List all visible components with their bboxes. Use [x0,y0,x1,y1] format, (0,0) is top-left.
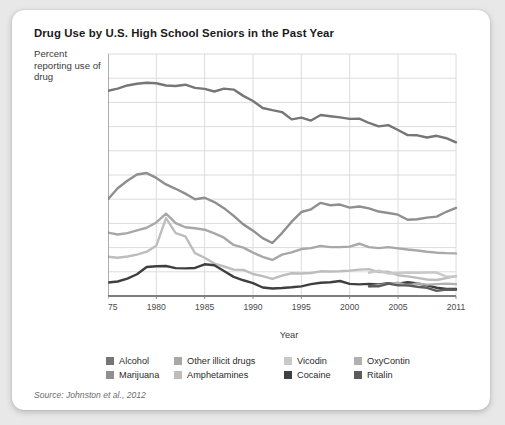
line-chart-svg: 0102030405060708090100 19751980198519901… [108,48,470,318]
x-tick-label: 1975 [108,302,118,312]
legend-swatch-icon [284,357,292,365]
legend-label: OxyContin [367,356,410,366]
legend-item-alcohol[interactable]: Alcohol [106,356,174,366]
legend-item-cocaine[interactable]: Cocaine [284,370,354,380]
chart-legend: AlcoholOther illicit drugsVicodinOxyCont… [106,354,436,382]
legend-swatch-icon [284,371,292,379]
grid-lines [108,54,456,296]
y-axis-caption: Percent reporting use of drug [34,48,106,83]
legend-swatch-icon [174,357,182,365]
axis-lines [108,54,456,299]
x-tick-label: 1985 [195,302,214,312]
legend-label: Cocaine [297,370,331,380]
legend-row: MarijuanaAmphetaminesCocaineRitalin [106,368,436,382]
series-line-alcohol [108,83,456,143]
legend-row: AlcoholOther illicit drugsVicodinOxyCont… [106,354,436,368]
legend-item-marijuana[interactable]: Marijuana [106,370,174,380]
legend-item-oxycontin[interactable]: OxyContin [354,356,434,366]
page-title: Drug Use by U.S. High School Seniors in … [34,27,334,39]
legend-item-other-illicit-drugs[interactable]: Other illicit drugs [174,356,284,366]
x-tick-label: 1990 [243,302,262,312]
legend-label: Vicodin [297,356,327,366]
source-note: Source: Johnston et al., 2012 [34,390,146,400]
x-axis-title: Year [108,330,470,340]
legend-label: Other illicit drugs [187,356,255,366]
x-tick-label: 2000 [340,302,359,312]
legend-item-vicodin[interactable]: Vicodin [284,356,354,366]
x-tick-label: 1995 [292,302,311,312]
legend-item-ritalin[interactable]: Ritalin [354,370,434,380]
legend-swatch-icon [106,371,114,379]
legend-swatch-icon [174,371,182,379]
x-tick-label: 2011 [447,302,466,312]
legend-swatch-icon [354,357,362,365]
legend-swatch-icon [106,357,114,365]
legend-label: Amphetamines [187,370,248,380]
data-series-group [108,83,456,291]
legend-label: Marijuana [119,370,159,380]
chart-card: Drug Use by U.S. High School Seniors in … [12,10,490,410]
legend-label: Ritalin [367,370,393,380]
legend-swatch-icon [354,371,362,379]
x-tick-label: 2005 [388,302,407,312]
chart-plot-area: 0102030405060708090100 19751980198519901… [108,48,470,318]
legend-label: Alcohol [119,356,149,366]
x-tick-label: 1980 [147,302,166,312]
legend-item-amphetamines[interactable]: Amphetamines [174,370,284,380]
x-axis-tick-labels: 19751980198519901995200020052011 [108,302,465,312]
